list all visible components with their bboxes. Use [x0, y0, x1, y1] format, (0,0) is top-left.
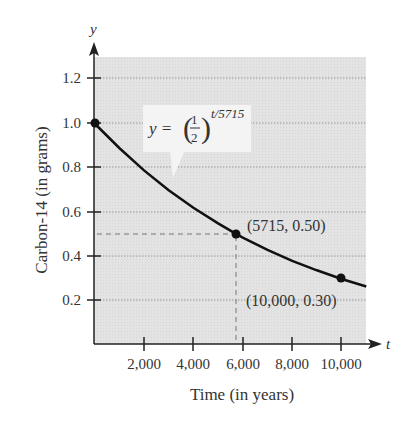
svg-text:0.4: 0.4 — [62, 248, 81, 264]
formula-numerator: 1 — [191, 112, 198, 127]
point-10000 — [337, 274, 346, 283]
x-axis-title: Time (in years) — [190, 385, 294, 404]
svg-text:): ) — [201, 111, 211, 145]
point-start — [91, 119, 100, 128]
formula-exponent: t/5715 — [211, 106, 245, 121]
formula-y: y = — [147, 119, 172, 138]
svg-text:10,000: 10,000 — [320, 356, 361, 372]
svg-text:0.2: 0.2 — [62, 292, 81, 308]
svg-text:2,000: 2,000 — [127, 356, 161, 372]
x-tick-labels: 2,000 4,000 6,000 8,000 10,000 — [127, 356, 362, 372]
svg-text:4,000: 4,000 — [176, 356, 210, 372]
svg-text:6,000: 6,000 — [226, 356, 260, 372]
svg-text:1.2: 1.2 — [62, 70, 81, 86]
chart: y = ( 1 2 ) t/5715 1.2 1.0 — [0, 0, 413, 424]
point-half-life — [232, 230, 241, 239]
annotation-half-life: (5715, 0.50) — [247, 217, 326, 235]
y-tick-labels: 1.2 1.0 0.8 0.6 0.4 0.2 — [62, 70, 81, 308]
svg-text:8,000: 8,000 — [275, 356, 309, 372]
formula-denominator: 2 — [191, 130, 198, 145]
svg-text:0.6: 0.6 — [62, 204, 81, 220]
y-axis-title: Carbon-14 (in grams) — [32, 126, 51, 273]
x-axis-var: t — [386, 336, 391, 352]
svg-text:0.8: 0.8 — [62, 159, 81, 175]
annotation-10000: (10,000, 0.30) — [246, 292, 337, 310]
y-axis-var: y — [88, 21, 97, 37]
svg-text:1.0: 1.0 — [62, 115, 81, 131]
